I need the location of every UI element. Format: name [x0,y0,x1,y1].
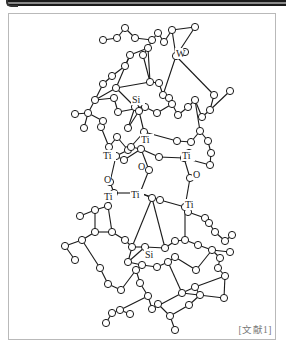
atom-label-ti: Ti [185,199,194,210]
atom [191,23,198,30]
bond [82,240,100,268]
atom [117,286,124,293]
atom [71,110,78,117]
atom [132,266,139,273]
bonds [65,27,232,330]
atom [127,143,134,150]
bond [132,198,152,247]
atom [191,96,198,103]
atom [102,319,109,326]
atom [220,294,227,301]
atom-label-ti: Ti [104,191,113,202]
atom [214,264,221,271]
atom [91,228,98,235]
citation-label: [文献1] [238,322,272,336]
atom [226,248,233,255]
atom [178,289,185,296]
bond [176,56,214,95]
atom [128,243,135,250]
atom [99,80,106,87]
atom [108,72,115,79]
atom [168,26,175,33]
atom [206,106,213,113]
atom [156,196,163,203]
atom-label-o: O [193,169,200,180]
atom [154,300,161,307]
atom [153,263,160,270]
atom-label-ti: Ti [182,150,191,161]
atom [61,242,68,249]
molecular-structure-diagram: WSiTiTiTiOOOTiTiTiSi [0,0,286,350]
atom [137,145,144,152]
atom [228,231,235,238]
atom [154,29,161,36]
atom-label-ti: Ti [131,189,140,200]
bond [168,262,182,293]
atom [173,137,180,144]
atom [207,149,214,156]
atom [205,219,212,226]
atom [91,96,98,103]
atom [187,138,194,145]
atom [99,117,106,124]
atom [80,124,87,131]
atom [204,137,211,144]
atom [210,91,217,98]
atom [104,280,111,287]
atom [148,194,155,201]
atom [76,212,83,219]
atom [181,236,188,243]
atom [153,109,160,116]
atom [144,292,151,299]
atom [78,236,85,243]
atom [113,34,120,41]
atom [124,124,131,131]
atom [91,206,98,213]
atom-label-o: O [104,174,111,185]
atom [206,161,213,168]
atom [113,133,120,140]
atom [166,312,173,319]
atom-label-ti: Ti [141,134,150,145]
atom [120,156,127,163]
atom [110,94,117,101]
atom [124,258,131,265]
atom [185,301,192,308]
atom [144,44,151,51]
atom [211,228,218,235]
atom [164,258,171,265]
bond [120,296,148,310]
atom [138,261,145,268]
atom [226,87,233,94]
atom [148,305,155,312]
bond [152,198,165,248]
atom [194,241,201,248]
atom [160,38,167,45]
atom [148,36,155,43]
atom [84,109,91,116]
atom [221,237,228,244]
atom [112,84,119,91]
atom [191,283,198,290]
atom-label-si: Si [145,249,154,260]
atom [168,100,175,107]
atom [196,291,203,298]
atom [171,253,178,260]
atom [192,266,199,273]
atom [216,254,223,261]
atom [146,78,153,85]
atom [104,202,111,209]
atom-label-si: Si [132,94,141,105]
atoms [61,23,235,333]
bond [163,56,176,95]
atom [174,111,181,118]
atom [198,113,205,120]
atom [171,326,178,333]
atom [139,51,146,58]
atom [155,79,162,86]
atom [96,264,103,271]
atom [171,237,178,244]
atom [126,51,133,58]
atom [184,103,191,110]
atom-label-o: O [138,161,145,172]
